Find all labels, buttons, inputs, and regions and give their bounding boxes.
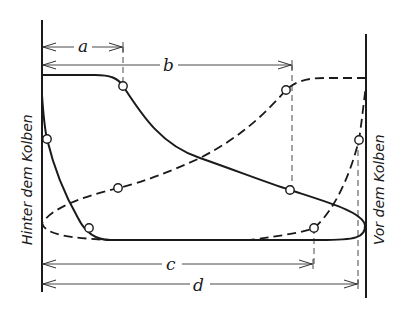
piston-pressure-diagram: a b c	[0, 0, 405, 316]
left-side-label: Hinter dem Kolben	[19, 114, 35, 245]
dimension-d: d	[42, 275, 358, 295]
dimension-b-label: b	[163, 55, 174, 75]
marker-dashed-d	[355, 136, 363, 144]
marker-dashed-mid	[114, 184, 122, 192]
marker-dashed-c	[310, 224, 318, 232]
marker-solid-b	[286, 186, 294, 194]
right-side-label: Vor dem Kolben	[371, 134, 387, 245]
dimension-a: a	[42, 36, 123, 56]
dimension-d-label: d	[193, 275, 204, 295]
dimension-c: c	[42, 254, 313, 274]
dimension-a-label: a	[78, 36, 88, 56]
marker-solid-left	[43, 135, 51, 143]
dimension-c-label: c	[166, 254, 176, 274]
solid-curve	[42, 75, 365, 240]
marker-solid-bottom	[85, 224, 93, 232]
dimension-b: b	[42, 55, 292, 75]
marker-solid-a	[119, 82, 127, 90]
marker-dashed-b	[282, 86, 290, 94]
